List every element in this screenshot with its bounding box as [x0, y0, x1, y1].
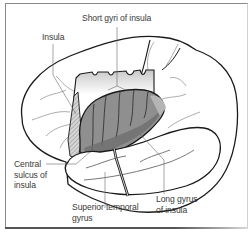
label-superior-temporal-gyrus: Superior temporal gyrus [72, 202, 139, 223]
label-short-gyri-of-insula: Short gyri of insula [82, 13, 151, 24]
label-insula: Insula [42, 32, 64, 43]
label-long-gyrus-of-insula: Long gyrus of insula [156, 194, 198, 215]
brain-illustration [0, 0, 250, 232]
label-central-sulcus-of-insula: Central sulcus of insula [14, 159, 47, 191]
